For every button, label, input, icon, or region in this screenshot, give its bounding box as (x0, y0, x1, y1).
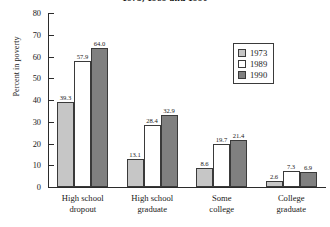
bar (161, 115, 178, 187)
bar (266, 181, 283, 187)
poverty-by-education-bar-chart: 1973, 1989 and 1990 Percent in poverty 0… (0, 0, 330, 227)
y-axis-tick (49, 165, 54, 166)
legend-swatch-icon-1989 (238, 60, 246, 68)
x-axis-category-label: Somecollege (183, 193, 261, 215)
y-axis-tick-label: 60 (1, 57, 41, 58)
y-axis-tick (49, 122, 54, 123)
legend-item-1990: 1990 (238, 69, 267, 80)
x-axis-category-label: Collegegraduate (253, 193, 330, 215)
legend-label-1989: 1989 (250, 59, 267, 69)
y-axis-tick-label: 50 (1, 78, 41, 79)
bar (144, 125, 161, 187)
bar-value-label: 21.4 (225, 132, 252, 139)
bar (196, 168, 213, 187)
y-axis-tick-label: 80 (1, 13, 41, 14)
x-axis-category-label: High schoolgraduate (114, 193, 192, 215)
y-axis-title: Percent in poverty (12, 7, 21, 127)
plot-area: 0102030405060708039.357.964.0High school… (48, 13, 326, 187)
legend-swatch-icon-1990 (238, 71, 246, 79)
legend-label-1990: 1990 (250, 70, 267, 80)
y-axis-tick (49, 57, 54, 58)
bar (213, 144, 230, 187)
x-axis-line (48, 187, 326, 188)
x-axis-category-label: High schooldropout (44, 193, 122, 215)
bar (127, 159, 144, 187)
y-axis-tick-label: 40 (1, 100, 41, 101)
y-axis-tick-label: 0 (1, 187, 41, 188)
y-axis-tick (49, 78, 54, 79)
bar (91, 48, 108, 187)
chart-title: 1973, 1989 and 1990 (0, 0, 330, 3)
y-axis-tick-label: 20 (1, 144, 41, 145)
bar-value-label: 64.0 (86, 40, 113, 47)
bar (74, 61, 91, 187)
y-axis-tick-label: 70 (1, 35, 41, 36)
y-axis-tick-label: 30 (1, 122, 41, 123)
bar-value-label: 32.9 (156, 107, 183, 114)
y-axis-tick (49, 187, 54, 188)
y-axis-tick (49, 13, 54, 14)
bar (300, 172, 317, 187)
legend-label-1973: 1973 (250, 48, 267, 58)
legend-item-1973: 1973 (238, 47, 267, 58)
legend-swatch-icon-1973 (238, 49, 246, 57)
bar (283, 171, 300, 187)
legend-item-1989: 1989 (238, 58, 267, 69)
y-axis-tick-label: 10 (1, 165, 41, 166)
chart-legend: 1973 1989 1990 (233, 43, 274, 84)
y-axis-tick (49, 35, 54, 36)
y-axis-tick (49, 144, 54, 145)
bar-value-label: 6.9 (295, 164, 322, 171)
bar (57, 102, 74, 187)
bar (230, 140, 247, 187)
